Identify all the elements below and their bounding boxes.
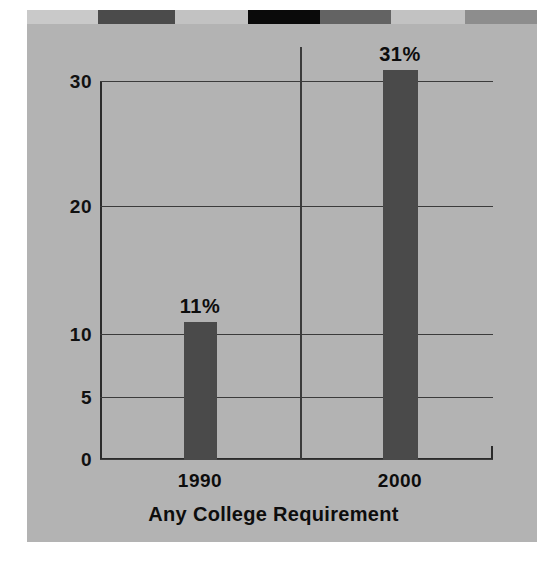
chart-figure: 05102030 11%31% 1990 2000 Any College Re… <box>0 0 553 562</box>
y-axis-tick-20: 20 <box>32 196 92 218</box>
plot-area: 11%31% <box>100 47 493 460</box>
color-strip-segment-5 <box>320 10 391 24</box>
gridline-10 <box>100 334 493 335</box>
decorative-color-strip <box>27 10 537 24</box>
group-divider-line <box>300 47 302 460</box>
x-axis-title: Any College Requirement <box>0 503 553 526</box>
y-axis-tick-labels: 05102030 <box>30 47 92 460</box>
color-strip-segment-7 <box>465 10 537 24</box>
bar-value-label-2000: 31% <box>379 43 421 66</box>
color-strip-segment-3 <box>175 10 248 24</box>
gridline-5 <box>100 397 493 398</box>
y-axis-tick-0: 0 <box>32 449 92 471</box>
x-axis-tick-2000: 2000 <box>378 470 422 492</box>
bar-1990[interactable] <box>184 322 217 460</box>
bar-value-label-1990: 11% <box>180 295 220 318</box>
color-strip-segment-2 <box>98 10 175 24</box>
bar-2000[interactable] <box>383 70 418 461</box>
color-strip-segment-6 <box>391 10 465 24</box>
plot-right-border <box>491 446 493 460</box>
x-axis-tick-1990: 1990 <box>178 470 222 492</box>
y-axis-line <box>100 82 102 460</box>
x-axis-title-text: Any College Requirement <box>148 503 398 525</box>
gridline-20 <box>100 206 493 207</box>
y-axis-tick-30: 30 <box>32 71 92 93</box>
color-strip-segment-4 <box>248 10 320 24</box>
y-axis-tick-5: 5 <box>32 387 92 409</box>
gridline-0 <box>100 459 493 460</box>
gridline-30 <box>100 81 493 82</box>
y-axis-tick-10: 10 <box>32 324 92 346</box>
color-strip-segment-1 <box>27 10 98 24</box>
